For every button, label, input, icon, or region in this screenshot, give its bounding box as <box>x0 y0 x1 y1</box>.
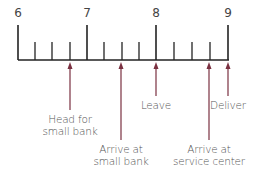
event-label-deliver: Deliver <box>210 99 246 111</box>
minor-ticks <box>35 42 210 60</box>
hour-label: 6 <box>14 6 22 20</box>
arrow-up-icon <box>207 62 212 69</box>
event-label-arrive-at-small-bank: Arrive at small bank <box>93 143 148 167</box>
arrow-up-icon <box>119 62 124 69</box>
hour-ticks <box>18 25 228 60</box>
event-label-arrive-at-service-center: Arrive at service center <box>173 143 245 167</box>
hour-label: 8 <box>152 6 160 20</box>
arrow-up-icon <box>226 62 231 69</box>
arrow-up-icon <box>154 62 159 69</box>
hour-label: 9 <box>224 6 232 20</box>
event-label-head-for-small-bank: Head for small bank <box>42 113 97 137</box>
event-label-leave: Leave <box>141 99 171 111</box>
arrow-up-icon <box>68 62 73 69</box>
hour-label: 7 <box>83 6 91 20</box>
